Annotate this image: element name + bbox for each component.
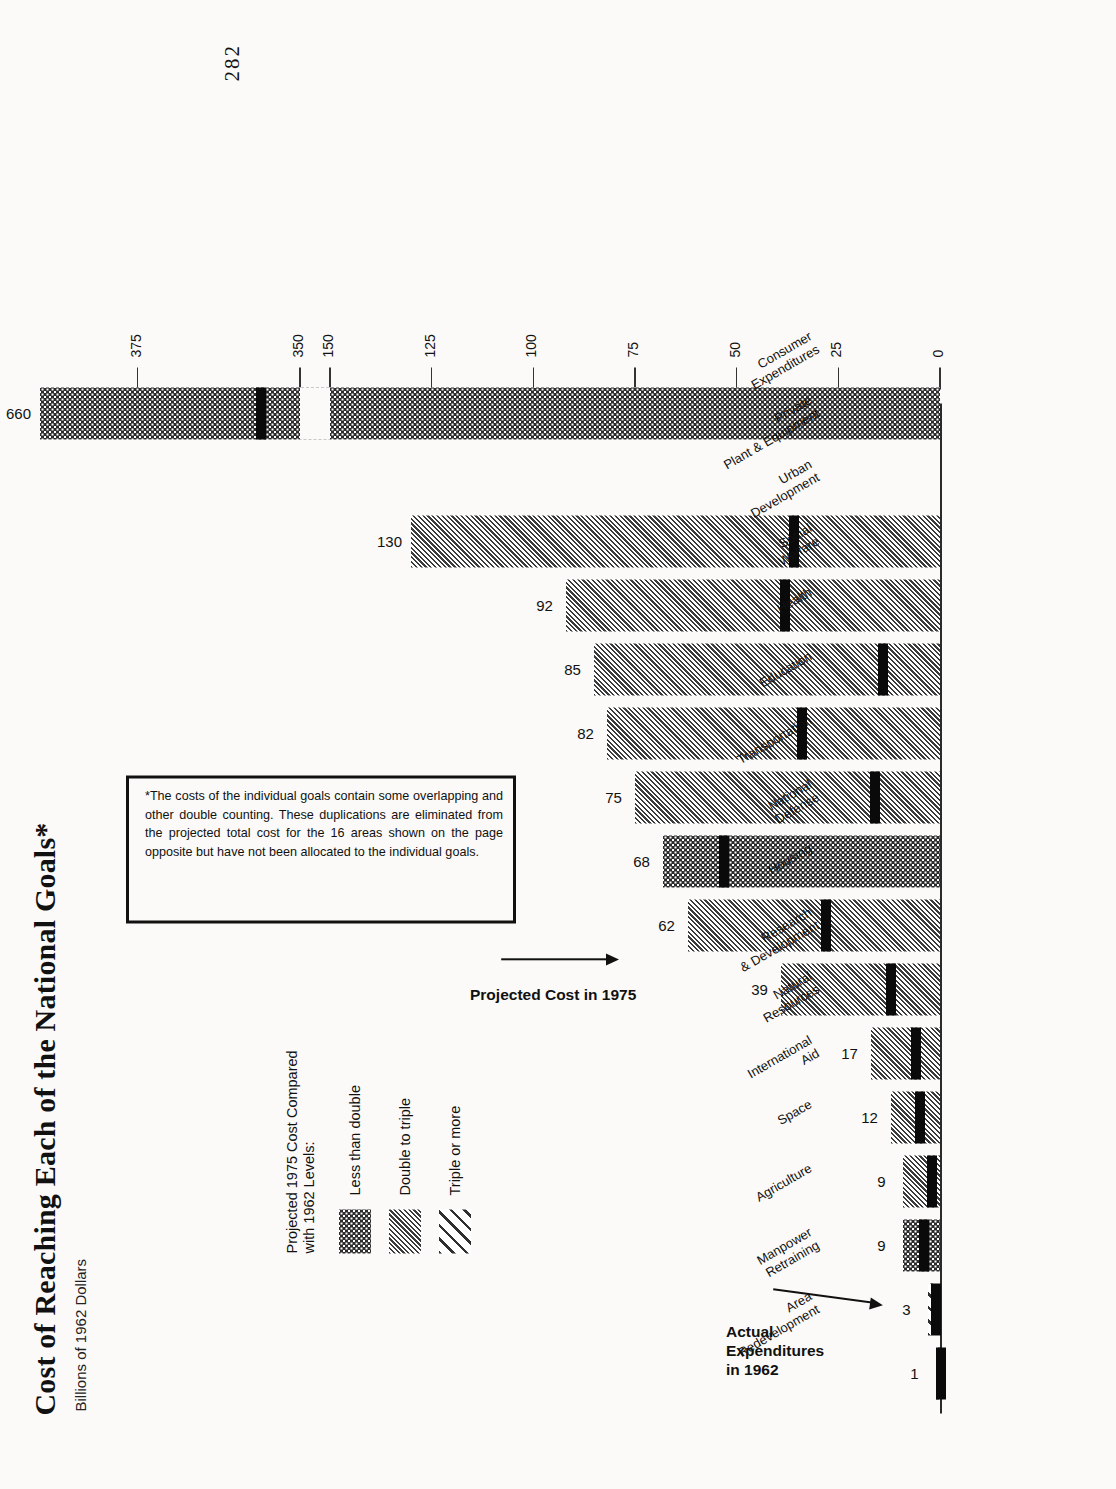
axis-tick bbox=[299, 367, 301, 389]
bar-actual-1962 bbox=[919, 1219, 929, 1271]
axis-tick-label: 25 bbox=[828, 341, 844, 357]
bar-actual-1962 bbox=[927, 1155, 937, 1207]
axis-tick bbox=[137, 367, 139, 389]
bar-group[interactable] bbox=[871, 1027, 940, 1079]
axis-tick bbox=[329, 367, 331, 389]
axis-tick bbox=[838, 367, 840, 389]
axis-tick bbox=[431, 367, 433, 389]
bar-actual-1962 bbox=[911, 1027, 921, 1079]
axis-tick bbox=[634, 367, 636, 389]
bar-projected-1975[interactable] bbox=[871, 1027, 940, 1079]
axis-tick-label: 0 bbox=[930, 349, 946, 357]
arrow-projected-cost-head bbox=[606, 953, 619, 965]
bar-value-label: 9 bbox=[868, 1237, 896, 1254]
bar-group[interactable] bbox=[903, 1155, 940, 1207]
axis-tick-label: 100 bbox=[523, 334, 539, 357]
axis-tick-label: 75 bbox=[625, 341, 641, 357]
arrow-projected-cost bbox=[501, 958, 613, 960]
bar-value-label: 130 bbox=[376, 533, 404, 550]
bar-group[interactable] bbox=[928, 1283, 940, 1335]
bar-group[interactable] bbox=[903, 1219, 940, 1271]
bar-actual-1962 bbox=[886, 963, 896, 1015]
bar-value-label: 9 bbox=[868, 1173, 896, 1190]
bar-actual-1962 bbox=[915, 1091, 925, 1143]
axis-break-gap bbox=[300, 451, 330, 503]
bar-actual-1962 bbox=[870, 771, 880, 823]
axis-tick-label: 350 bbox=[290, 334, 306, 357]
bar-value-label: 12 bbox=[856, 1109, 884, 1126]
bar-actual-1962 bbox=[821, 899, 831, 951]
bar-value-label: 85 bbox=[559, 661, 587, 678]
bar-value-label: 92 bbox=[530, 597, 558, 614]
bar-actual-1962 bbox=[936, 1347, 946, 1399]
chart-plot-area: 0255075100125150350375660ConsumerExpendi… bbox=[0, 0, 1116, 1489]
bar-value-label: 82 bbox=[571, 725, 599, 742]
bar-actual-1962 bbox=[256, 387, 266, 439]
bar-value-label: 1 bbox=[900, 1365, 928, 1382]
arrow-actual-expenditures-head bbox=[869, 1297, 883, 1311]
chart-axis-line bbox=[940, 403, 942, 1413]
axis-tick-label: 125 bbox=[422, 334, 438, 357]
bar-value-label: 75 bbox=[600, 789, 628, 806]
bar-group[interactable] bbox=[936, 1347, 940, 1399]
bar-value-label: 660 bbox=[5, 405, 33, 422]
bar-value-label: 3 bbox=[892, 1301, 920, 1318]
axis-tick-label: 375 bbox=[128, 334, 144, 357]
bar-actual-1962 bbox=[878, 643, 888, 695]
axis-tick-label: 150 bbox=[320, 334, 336, 357]
axis-tick-label: 50 bbox=[727, 341, 743, 357]
axis-tick bbox=[533, 367, 535, 389]
bar-value-label: 68 bbox=[628, 853, 656, 870]
axis-tick bbox=[939, 367, 941, 389]
printed-page: Cost of Reaching Each of the National Go… bbox=[0, 0, 1116, 1489]
bar-group[interactable] bbox=[891, 1091, 940, 1143]
bar-actual-1962 bbox=[931, 1283, 941, 1335]
axis-break-gap bbox=[300, 387, 330, 439]
bar-value-label: 17 bbox=[835, 1045, 863, 1062]
